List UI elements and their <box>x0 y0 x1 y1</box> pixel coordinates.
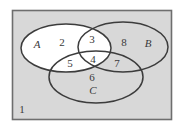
venn-diagram-figure: 1 2 3 4 5 6 7 8 A B C <box>0 0 187 130</box>
region-label-a-and-c: 5 <box>67 57 73 69</box>
set-label-b: B <box>145 37 152 49</box>
set-label-c: C <box>89 84 97 96</box>
set-label-a: A <box>33 38 41 50</box>
region-label-b-and-c: 7 <box>114 57 120 69</box>
region-label-a-and-b: 3 <box>89 33 95 45</box>
region-label-a-and-b-and-c: 4 <box>90 53 96 65</box>
venn-diagram-canvas: 1 2 3 4 5 6 7 8 A B C <box>0 0 187 130</box>
region-label-universe-only: 1 <box>19 103 25 115</box>
region-label-c-only: 6 <box>89 71 95 83</box>
region-label-a-only: 2 <box>59 36 65 48</box>
region-label-b-only: 8 <box>121 36 127 48</box>
